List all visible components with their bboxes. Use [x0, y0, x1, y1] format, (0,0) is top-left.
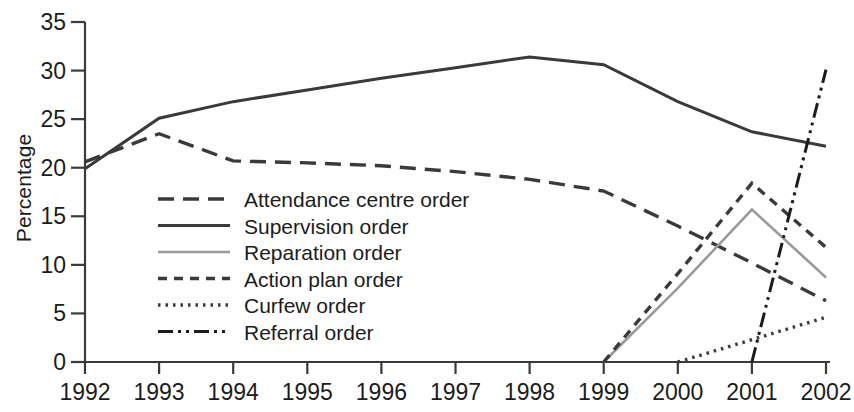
x-axis: 1992199319941995199619971998199920002001…: [59, 362, 851, 405]
series-line: [604, 183, 826, 362]
x-tick-label: 1997: [430, 379, 481, 405]
legend-label: Reparation order: [244, 241, 402, 264]
y-axis: 05101520253035: [40, 9, 85, 375]
legend-label: Action plan order: [244, 268, 403, 291]
x-tick-label: 1993: [134, 379, 185, 405]
x-tick-label: 1998: [504, 379, 555, 405]
series-line: [752, 70, 826, 362]
y-tick-label: 25: [40, 106, 66, 132]
legend-label: Referral order: [244, 321, 374, 344]
x-tick-label: 1999: [578, 379, 629, 405]
y-tick-label: 10: [40, 252, 66, 278]
series-line: [678, 317, 826, 362]
series-line: [85, 134, 826, 301]
legend-label: Supervision order: [244, 215, 409, 238]
x-tick-label: 2002: [800, 379, 851, 405]
chart-legend: Attendance centre orderSupervision order…: [158, 188, 469, 344]
x-tick-group: 1992199319941995199619971998199920002001…: [59, 362, 851, 405]
chart-canvas: 05101520253035 1992199319941995199619971…: [0, 0, 854, 412]
series-line: [85, 57, 826, 169]
x-tick-label: 2000: [652, 379, 703, 405]
y-tick-label: 15: [40, 203, 66, 229]
x-tick-label: 1995: [282, 379, 333, 405]
legend-label: Attendance centre order: [244, 188, 469, 211]
series-line: [604, 209, 826, 362]
line-chart: Percentage 05101520253035 19921993199419…: [0, 0, 854, 412]
legend-label: Curfew order: [244, 294, 365, 317]
y-tick-label: 30: [40, 58, 66, 84]
x-tick-label: 1996: [356, 379, 407, 405]
x-tick-label: 1994: [208, 379, 259, 405]
y-tick-group: 05101520253035: [40, 9, 85, 375]
y-tick-label: 35: [40, 9, 66, 35]
x-tick-label: 1992: [59, 379, 110, 405]
y-tick-label: 5: [53, 300, 66, 326]
y-tick-label: 0: [53, 349, 66, 375]
y-tick-label: 20: [40, 155, 66, 181]
x-tick-label: 2001: [726, 379, 777, 405]
